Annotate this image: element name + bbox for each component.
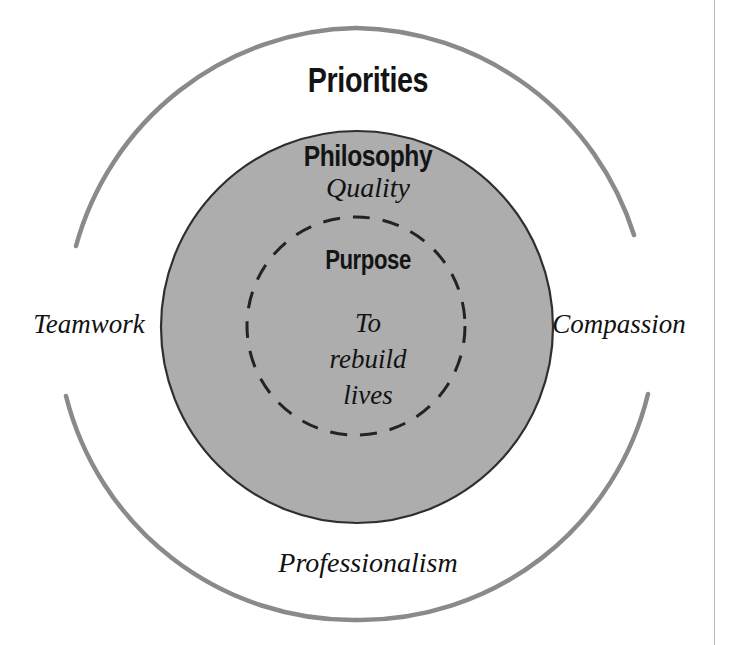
inner-ring-heading: Purpose [66, 244, 670, 277]
mission-line-2: rebuild [0, 341, 736, 377]
middle-ring-heading: Philosophy [66, 138, 670, 174]
mission-line-3: lives [0, 377, 736, 413]
outer-ring-value-teamwork: Teamwork [14, 306, 164, 342]
middle-ring-value-quality: Quality [0, 171, 736, 205]
outer-ring-heading: Priorities [66, 59, 670, 101]
outer-ring-value-compassion: Compassion [524, 306, 714, 342]
outer-ring-value-professionalism: Professionalism [0, 545, 736, 581]
page-edge-rule [714, 0, 715, 645]
concentric-values-diagram: Priorities Philosophy Quality Purpose To… [0, 0, 736, 645]
